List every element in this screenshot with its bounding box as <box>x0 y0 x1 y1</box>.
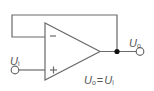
output-voltage-subscript: o <box>137 42 141 49</box>
output-junction-node <box>114 49 119 54</box>
equation-rhs-subscript: i <box>112 79 114 86</box>
output-voltage-label: Uo <box>129 38 141 49</box>
output-voltage-symbol: U <box>129 37 137 49</box>
follower-equation: Uo=Ui <box>84 75 114 86</box>
input-voltage-subscript: i <box>18 60 20 67</box>
equation-lhs-symbol: U <box>84 74 92 86</box>
input-voltage-symbol: U <box>10 55 18 67</box>
input-voltage-label: Ui <box>10 56 20 67</box>
input-terminal <box>11 66 19 74</box>
